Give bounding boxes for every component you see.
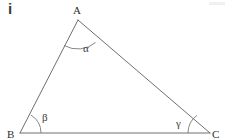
vertex-label-C: C xyxy=(212,129,219,139)
vertex-label-B: B xyxy=(7,129,14,139)
angle-label-alpha: α xyxy=(83,43,89,54)
angle-arc-alpha xyxy=(64,43,96,50)
edge-AB xyxy=(20,20,78,133)
angle-arc-beta xyxy=(31,115,41,133)
triangle-diagram xyxy=(0,0,227,139)
vertex-label-A: A xyxy=(73,5,81,16)
figure-canvas: i A B C α β γ xyxy=(0,0,227,139)
edge-AC xyxy=(78,20,210,133)
angle-label-gamma: γ xyxy=(176,118,181,129)
angle-label-beta: β xyxy=(42,112,48,123)
